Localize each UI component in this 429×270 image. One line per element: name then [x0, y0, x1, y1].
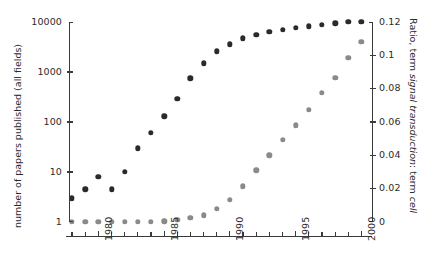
x-tick [335, 232, 336, 236]
data-point-series-2 [201, 213, 206, 218]
x-tick [282, 232, 283, 236]
y-axis-right-cap-top [369, 22, 373, 23]
x-tick [124, 232, 125, 236]
data-point-series-1 [122, 169, 127, 174]
y-tick-label-left: 1 [18, 216, 62, 227]
data-point-series-2 [240, 183, 245, 188]
x-tick [348, 232, 349, 236]
data-point-series-2 [280, 137, 285, 142]
y-axis-title-right: Ratio, term signal transduction: term ce… [408, 18, 419, 213]
data-point-series-2 [254, 168, 259, 173]
x-tick [216, 232, 217, 236]
data-point-series-1 [175, 96, 180, 101]
y-axis-title-left: number of papers published (all fields) [12, 44, 23, 228]
data-point-series-1 [346, 19, 351, 24]
data-point-series-2 [319, 90, 324, 95]
data-point-series-2 [135, 219, 140, 224]
data-point-series-2 [359, 39, 364, 44]
data-point-series-2 [332, 75, 337, 80]
y-tick-right [370, 121, 376, 122]
x-tick-label: 1995 [300, 217, 311, 241]
data-point-series-1 [214, 49, 219, 54]
data-point-series-2 [267, 153, 272, 158]
x-tick [98, 231, 99, 237]
data-point-series-2 [161, 218, 166, 223]
y-axis-left-cap-top [69, 22, 73, 23]
data-point-series-1 [240, 36, 245, 41]
x-tick [269, 232, 270, 236]
x-tick-label: 2000 [366, 217, 377, 241]
x-tick [137, 232, 138, 236]
data-point-series-1 [83, 187, 88, 192]
y-tick-label-left: 1000 [18, 66, 62, 77]
y-tick-left [67, 121, 73, 122]
y-tick-right [370, 188, 376, 189]
x-tick [361, 231, 362, 237]
data-point-series-1 [96, 174, 101, 179]
data-point-series-1 [306, 24, 311, 29]
data-point-series-1 [161, 114, 166, 119]
data-point-series-1 [359, 19, 364, 24]
x-tick [190, 232, 191, 236]
x-tick-label: 1990 [234, 217, 245, 241]
data-point-series-1 [293, 25, 298, 30]
data-point-series-2 [293, 123, 298, 128]
y-tick-left [67, 171, 73, 172]
y-tick-right [370, 155, 376, 156]
data-point-series-2 [122, 219, 127, 224]
data-point-series-1 [109, 187, 114, 192]
y-tick-label-left: 10 [18, 166, 62, 177]
x-tick [164, 231, 165, 237]
data-point-series-2 [96, 219, 101, 224]
x-tick [321, 232, 322, 236]
x-tick [295, 231, 296, 237]
data-point-series-1 [280, 27, 285, 32]
x-tick [256, 232, 257, 236]
data-point-series-2 [227, 197, 232, 202]
data-point-series-1 [135, 145, 140, 150]
y-axis-left-cap-bottom [69, 221, 73, 222]
data-point-series-1 [148, 130, 153, 135]
data-point-series-1 [188, 76, 193, 81]
plot-area [0, 0, 429, 270]
y-tick-right [370, 55, 376, 56]
data-point-series-2 [346, 55, 351, 60]
data-point-series-1 [201, 60, 206, 65]
y-tick-label-left: 10000 [18, 16, 62, 27]
chart-figure: 11010010001000000.020.040.060.080.10.121… [0, 0, 429, 270]
y-tick-label-left: 100 [18, 116, 62, 127]
data-point-series-2 [214, 206, 219, 211]
x-tick [229, 231, 230, 237]
x-tick [71, 232, 72, 236]
data-point-series-2 [188, 215, 193, 220]
y-tick-right [370, 88, 376, 89]
data-point-series-2 [306, 107, 311, 112]
y-tick-label-right: 0 [379, 216, 413, 227]
data-point-series-1 [227, 41, 232, 46]
data-point-series-1 [254, 32, 259, 37]
data-point-series-1 [332, 20, 337, 25]
x-tick [203, 232, 204, 236]
data-point-series-1 [267, 29, 272, 34]
y-tick-left [67, 71, 73, 72]
data-point-series-2 [83, 219, 88, 224]
x-tick-label: 1985 [169, 217, 180, 241]
data-point-series-2 [148, 219, 153, 224]
data-point-series-1 [319, 22, 324, 27]
x-tick-label: 1980 [103, 217, 114, 241]
x-tick [85, 232, 86, 236]
x-tick [150, 232, 151, 236]
